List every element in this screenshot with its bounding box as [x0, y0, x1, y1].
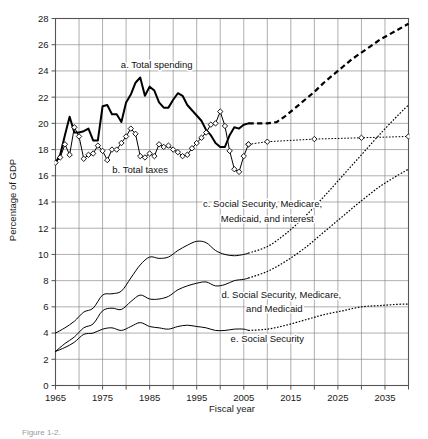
y-tick-label: 4 — [43, 327, 48, 338]
x-tick-label: 1985 — [139, 392, 160, 403]
budget-projection-chart: 0246810121416182022242628 19651975198519… — [0, 0, 428, 439]
figure-caption: Figure 1-2. — [22, 428, 61, 437]
y-tick-label: 6 — [43, 301, 48, 312]
chart-background — [0, 0, 428, 439]
x-tick-label: 1995 — [186, 392, 207, 403]
y-tick-label: 14 — [38, 196, 49, 207]
x-tick-label: 2025 — [327, 392, 348, 403]
y-tick-label: 22 — [38, 92, 49, 103]
y-tick-label: 28 — [38, 13, 49, 24]
y-tick-label: 2 — [43, 354, 48, 365]
annotation-d: d. Social Security, Medicare, — [222, 289, 342, 300]
annotation-c2: Medicaid, and interest — [221, 213, 314, 224]
figure-container: 0246810121416182022242628 19651975198519… — [0, 0, 428, 439]
x-axis-title: Fiscal year — [209, 403, 255, 414]
x-tick-label: 1975 — [92, 392, 113, 403]
x-tick-label: 2015 — [280, 392, 301, 403]
x-tick-label: 1965 — [45, 392, 66, 403]
y-tick-label: 12 — [38, 223, 49, 234]
y-tick-label: 24 — [38, 65, 49, 76]
y-axis-title: Percentage of GDP — [7, 159, 18, 241]
y-tick-label: 16 — [38, 170, 49, 181]
annotation-b: b. Total taxes — [112, 164, 168, 175]
y-tick-label: 10 — [38, 249, 49, 260]
y-tick-label: 8 — [43, 275, 48, 286]
y-tick-label: 20 — [38, 118, 49, 129]
x-tick-label: 2035 — [374, 392, 395, 403]
y-tick-label: 0 — [43, 380, 48, 391]
annotation-d2: and Medicaid — [246, 303, 303, 314]
y-tick-label: 26 — [38, 39, 49, 50]
y-tick-label: 18 — [38, 144, 49, 155]
x-tick-label: 2005 — [233, 392, 254, 403]
annotation-a: a. Total spending — [121, 59, 193, 70]
annotation-e: e. Social Security — [231, 333, 305, 344]
annotation-c: c. Social Security, Medicare, — [203, 198, 322, 209]
